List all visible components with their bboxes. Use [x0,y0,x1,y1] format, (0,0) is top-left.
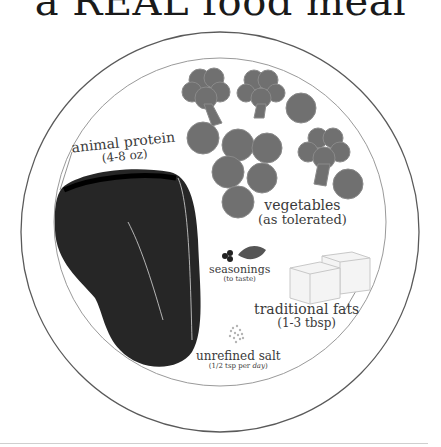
fats-label: traditional fats (1-3 tbsp) [254,302,359,329]
seasonings-label: seasonings (to taste) [209,264,270,283]
vegetables-icon [182,68,363,218]
salt-granules-icon [229,325,244,343]
salt-amount: (1/2 tsp per day) [196,363,281,370]
vegetables-label-text: vegetables [258,198,347,213]
seasonings-icon [222,246,266,262]
seasonings-label-text: seasonings [209,264,270,276]
traditional-fats-icon [290,252,370,304]
vegetables-label: vegetables (as tolerated) [258,198,347,226]
meat-steak-icon [55,169,201,366]
fats-amount: (1-3 tbsp) [254,317,359,330]
plate-diagram [0,0,441,447]
fats-label-text: traditional fats [254,302,359,317]
seasonings-amount: (to taste) [209,276,270,283]
vegetables-amount: (as tolerated) [258,213,347,227]
salt-label: unrefined salt (1/2 tsp per day) [196,350,281,370]
divider-line [0,443,428,444]
